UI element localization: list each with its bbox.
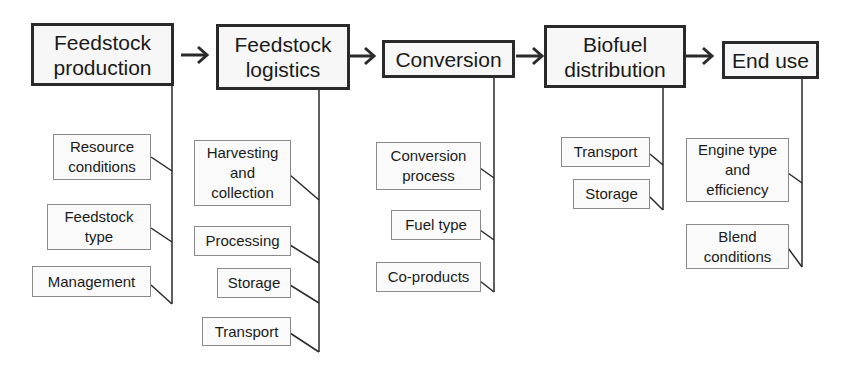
item-resource-conditions: Resource conditions [53,134,151,180]
item-engine-type-efficiency: Engine type and efficiency [686,138,789,202]
stage-feedstock-production: Feedstock production [31,23,174,86]
item-storage-distribution: Storage [573,179,650,209]
stage-feedstock-logistics: Feedstock logistics [216,24,350,90]
item-storage: Storage [217,268,291,298]
item-feedstock-type: Feedstock type [47,204,151,250]
item-fuel-type: Fuel type [391,210,481,240]
stage-biofuel-distribution: Biofuel distribution [544,25,686,88]
item-transport: Transport [202,317,291,346]
item-co-products: Co-products [376,262,481,292]
stage-end-use: End use [722,41,819,79]
item-transport-distribution: Transport [561,137,650,167]
item-blend-conditions: Blend conditions [686,224,789,269]
stage-conversion: Conversion [382,40,515,78]
item-conversion-process: Conversion process [376,142,481,190]
item-management: Management [32,266,151,297]
item-processing: Processing [194,226,291,256]
item-harvesting-collection: Harvesting and collection [194,140,291,206]
